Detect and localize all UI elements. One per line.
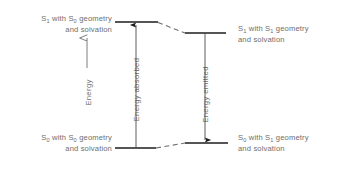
dashed-connector-lower — [156, 143, 185, 148]
diagram-lines — [0, 0, 339, 170]
dashed-connector-upper — [158, 23, 185, 34]
energy-level-diagram: S1 with S0 geometry and solvation S0 wit… — [0, 0, 339, 170]
